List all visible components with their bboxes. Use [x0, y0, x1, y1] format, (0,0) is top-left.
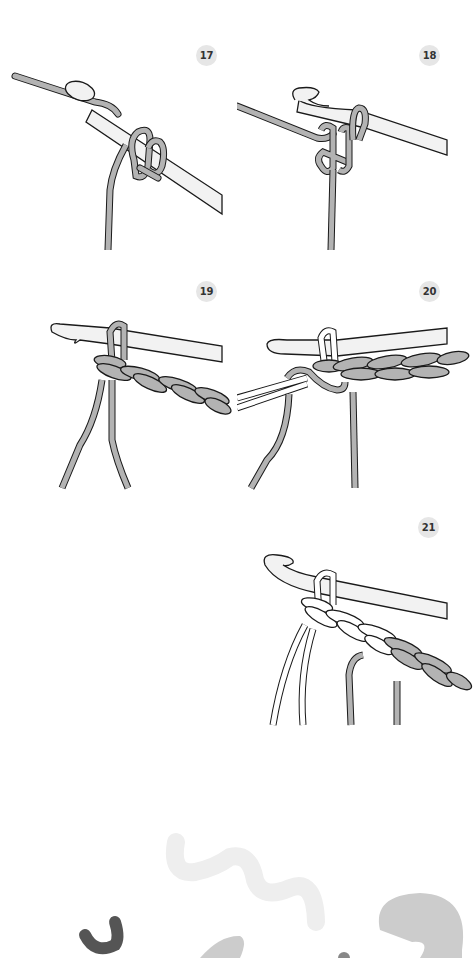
decorative-yarn-shapes [0, 780, 474, 958]
step-18-panel: 18 [237, 0, 474, 260]
grey-blob-shape [200, 936, 244, 958]
step-17-panel: 17 [0, 0, 237, 260]
crochet-illustration-step-18 [237, 0, 474, 260]
crochet-illustration-step-19 [0, 270, 237, 490]
dot-shape [338, 952, 350, 958]
crochet-illustration-step-17 [0, 0, 237, 260]
crochet-illustration-step-21 [237, 505, 474, 730]
light-blob-shape [379, 893, 463, 958]
squiggle-shape [175, 842, 316, 922]
dark-arc-shape [85, 922, 118, 948]
step-19-panel: 19 [0, 270, 237, 490]
crochet-illustration-step-20 [237, 270, 474, 490]
step-21-panel: 21 [237, 505, 474, 730]
step-number-badge: 21 [418, 517, 439, 538]
step-number-badge: 20 [419, 281, 440, 302]
step-number-badge: 17 [196, 45, 217, 66]
step-20-panel: 20 [237, 270, 474, 490]
step-number-badge: 18 [419, 45, 440, 66]
step-number-badge: 19 [196, 281, 217, 302]
